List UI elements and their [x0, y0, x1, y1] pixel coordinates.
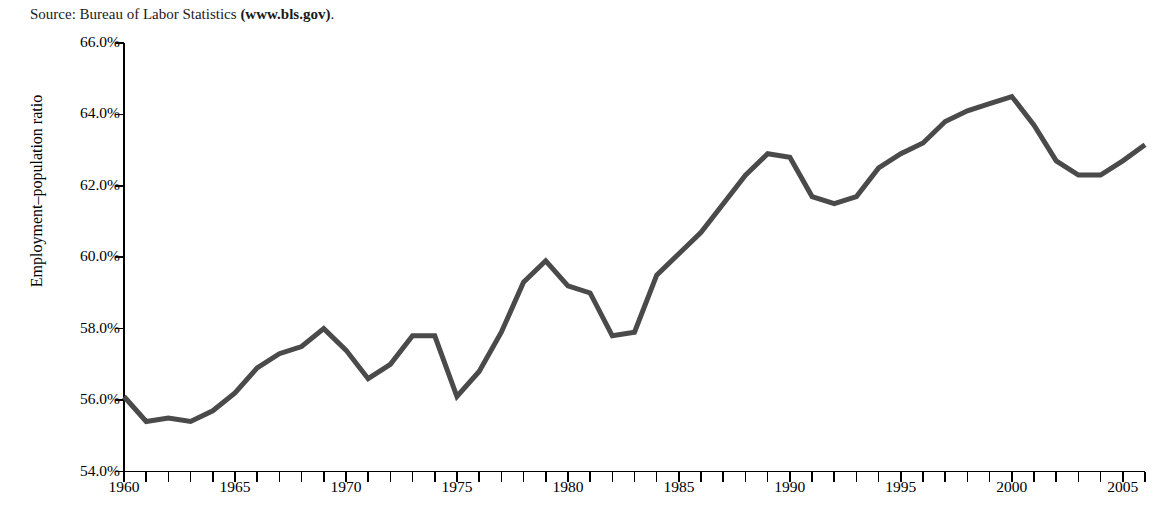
x-tick-label: 1965: [195, 478, 275, 496]
plot-area: Employment–population ratio 66.0%64.0%62…: [0, 0, 1167, 510]
x-tick-label: 1985: [639, 478, 719, 496]
y-tick-label: 60.0%: [48, 247, 120, 265]
chart-canvas: [0, 0, 1167, 510]
chart-figure: Source: Bureau of Labor Statistics (www.…: [0, 0, 1167, 510]
x-tick-label: 2005: [1083, 478, 1163, 496]
y-tick-label: 54.0%: [48, 462, 120, 480]
x-tick-label: 1975: [417, 478, 497, 496]
axes-group: [124, 43, 1145, 472]
y-tick-label: 66.0%: [48, 33, 120, 51]
y-axis-label: Employment–population ratio: [28, 61, 46, 321]
x-tick-label: 1960: [84, 478, 164, 496]
x-tick-label: 1980: [528, 478, 608, 496]
x-tick-label: 2000: [972, 478, 1052, 496]
x-tick-label: 1995: [861, 478, 941, 496]
tick-marks-group: [115, 43, 1145, 482]
y-tick-label: 62.0%: [48, 176, 120, 194]
y-tick-label: 56.0%: [48, 390, 120, 408]
x-tick-label: 1990: [750, 478, 830, 496]
data-series-line: [124, 97, 1145, 422]
x-tick-label: 1970: [306, 478, 386, 496]
y-tick-label: 64.0%: [48, 104, 120, 122]
y-tick-label: 58.0%: [48, 319, 120, 337]
